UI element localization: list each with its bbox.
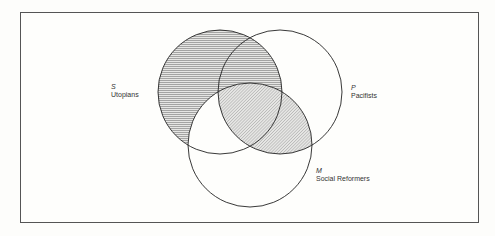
label-p-name: Pacifists [351, 92, 377, 100]
label-s: S Utopians [111, 83, 139, 99]
label-m: M Social Reformers [316, 167, 370, 183]
label-s-name: Utopians [111, 91, 139, 99]
venn-diagram [0, 0, 495, 236]
label-p-letter: P [351, 84, 377, 92]
label-p: P Pacifists [351, 84, 377, 100]
label-m-name: Social Reformers [316, 175, 370, 183]
label-s-letter: S [111, 83, 139, 91]
label-m-letter: M [316, 167, 370, 175]
